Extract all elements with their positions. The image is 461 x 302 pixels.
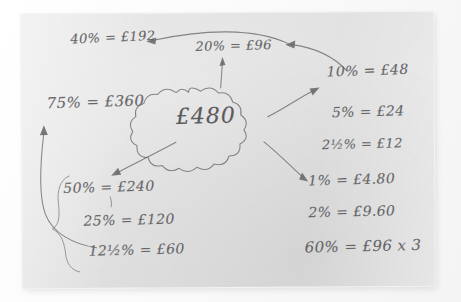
arrow-to-20-percent <box>219 57 225 88</box>
note-2-half-percent: 2½% = £12 <box>322 135 403 152</box>
handwriting-layer: 40% = £192 20% = £96 10% = £48 75% = £36… <box>0 0 461 302</box>
note-60-percent: 60% = £96 x 3 <box>304 236 421 257</box>
arrow-bubble-upper-right <box>268 87 320 116</box>
cloud-bubble-outline <box>130 88 246 172</box>
arrow-bubble-lower-left <box>111 142 176 175</box>
photo-canvas: 40% = £192 20% = £96 10% = £48 75% = £36… <box>0 0 461 302</box>
note-10-percent: 10% = £48 <box>326 61 409 80</box>
note-1-percent: 1% = £4.80 <box>308 170 395 189</box>
note-2-percent: 2% = £9.60 <box>308 202 395 220</box>
note-12-half-percent: 12½% = £60 <box>88 240 184 259</box>
small-pencil-tick <box>110 197 111 207</box>
note-75-percent: 75% = £360 <box>46 91 144 112</box>
note-25-percent: 25% = £120 <box>83 211 175 229</box>
note-5-percent: 5% = £24 <box>332 102 405 120</box>
note-50-percent: 50% = £240 <box>63 178 155 196</box>
bubble-amount-label: £480 <box>175 102 236 129</box>
arrow-bubble-lower-right <box>264 142 308 182</box>
note-20-percent: 20% = £96 <box>195 37 272 54</box>
